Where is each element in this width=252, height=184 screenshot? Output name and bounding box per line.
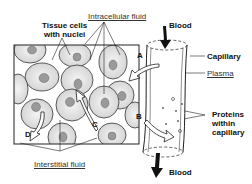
arrow-b-label: B <box>136 112 142 121</box>
proteins-label-3: capillary <box>212 128 244 137</box>
tissue-cells-label: Tissue cells <box>42 21 87 30</box>
proteins-label-2: within <box>212 119 235 128</box>
plasma-label: Plasma <box>207 69 234 78</box>
with-nuclei-label: with nuclei <box>44 30 85 39</box>
arrow-a-label: A <box>137 51 143 60</box>
proteins-label-1: Proteins <box>212 110 244 119</box>
interstitial-fluid-label: Interstitial fluid <box>34 160 85 169</box>
capillary-label: Capillary <box>207 52 241 61</box>
intracellular-fluid-label: Intracellular fluid <box>88 12 146 21</box>
blood-in-label: Blood <box>169 21 192 30</box>
blood-out-label: Blood <box>169 168 192 177</box>
diagram-canvas <box>0 0 252 184</box>
arrow-d-label: D <box>25 130 31 139</box>
arrow-c-label: C <box>92 120 98 129</box>
